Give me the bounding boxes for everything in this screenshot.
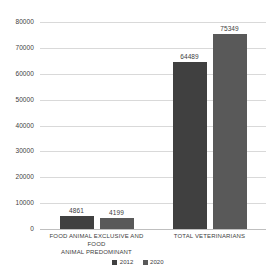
legend-item-2020[interactable]: 2020 bbox=[143, 259, 164, 265]
bar-2020[interactable] bbox=[213, 34, 247, 229]
bar-groups: 486141996448975349 bbox=[40, 22, 266, 229]
x-axis-category-labels: FOOD ANIMAL EXCLUSIVE AND FOODANIMAL PRE… bbox=[40, 232, 266, 256]
legend-label: 2020 bbox=[150, 259, 164, 265]
bar-chart: 0100002000030000400005000060000700008000… bbox=[0, 0, 276, 274]
bar-slot: 4199 bbox=[100, 22, 134, 229]
bar-value-label: 75349 bbox=[220, 25, 239, 32]
chart-legend: 20122020 bbox=[0, 259, 276, 265]
x-axis-category-label: TOTAL VETERINARIANS bbox=[153, 232, 266, 256]
bar-slot: 64489 bbox=[173, 22, 207, 229]
y-axis-tick-label: 80000 bbox=[0, 18, 34, 25]
y-axis-tick-label: 0 bbox=[0, 225, 34, 232]
category-label-line: TOTAL VETERINARIANS bbox=[155, 232, 264, 240]
legend-item-2012[interactable]: 2012 bbox=[112, 259, 133, 265]
bar-group: 48614199 bbox=[40, 22, 153, 229]
legend-label: 2012 bbox=[120, 259, 134, 265]
bar-2020[interactable] bbox=[100, 218, 134, 229]
y-axis-tick-label: 70000 bbox=[0, 44, 34, 51]
bar-2012[interactable] bbox=[173, 62, 207, 229]
bar-value-label: 64489 bbox=[180, 53, 199, 60]
bar-value-label: 4199 bbox=[109, 209, 124, 216]
bar-2012[interactable] bbox=[60, 216, 94, 229]
legend-swatch-icon bbox=[112, 260, 117, 265]
bar-slot: 4861 bbox=[60, 22, 94, 229]
y-axis-tick-label: 20000 bbox=[0, 173, 34, 180]
axis-baseline bbox=[40, 229, 266, 230]
category-label-line: FOOD ANIMAL EXCLUSIVE AND FOOD bbox=[42, 232, 151, 248]
bar-slot: 75349 bbox=[213, 22, 247, 229]
y-axis-tick-label: 50000 bbox=[0, 96, 34, 103]
bar-group: 6448975349 bbox=[153, 22, 266, 229]
y-axis-tick-label: 10000 bbox=[0, 199, 34, 206]
x-axis-category-label: FOOD ANIMAL EXCLUSIVE AND FOODANIMAL PRE… bbox=[40, 232, 153, 256]
legend-swatch-icon bbox=[143, 260, 148, 265]
y-axis-tick-label: 60000 bbox=[0, 70, 34, 77]
y-axis-tick-label: 40000 bbox=[0, 122, 34, 129]
y-axis-tick-label: 30000 bbox=[0, 147, 34, 154]
category-label-line: ANIMAL PREDOMINANT bbox=[42, 248, 151, 256]
bar-value-label: 4861 bbox=[69, 207, 84, 214]
